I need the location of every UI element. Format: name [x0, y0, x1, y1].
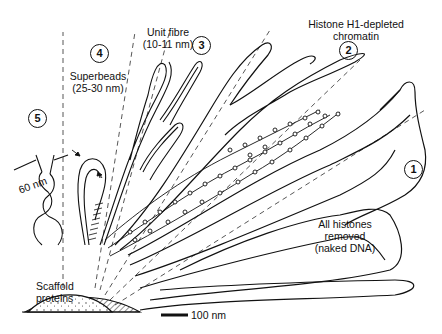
- stage-2-label: Histone H1-depleted chromatin: [301, 18, 411, 42]
- scale-bar-label: 100 nm: [191, 309, 226, 321]
- twisted-coil-60nm: [14, 155, 68, 245]
- superbead-width-arrows: [72, 150, 102, 178]
- stage-1-label-line3: (naked DNA): [300, 242, 390, 254]
- stage-1-label-line2: removed: [300, 230, 390, 242]
- stage-3-label-line2: (10-11 nm): [138, 38, 198, 50]
- stage-4-label-line2: (25-30 nm): [66, 82, 130, 94]
- stage-3-label: Unit fibre (10-11 nm): [138, 26, 198, 50]
- stage-1-marker: 1: [404, 160, 423, 179]
- stage-4-marker: 4: [90, 44, 109, 63]
- naked-dna-loops: [128, 82, 426, 310]
- stage-4-label-line1: Superbeads: [66, 70, 130, 82]
- superbead-coil: [88, 203, 103, 240]
- stage-3-label-line1: Unit fibre: [138, 26, 198, 38]
- scaffold-label: Scaffold proteins: [36, 280, 96, 304]
- superbead-loop: [78, 159, 106, 245]
- stage-2-marker: 2: [339, 41, 358, 60]
- stage-5-marker: 5: [28, 109, 47, 128]
- stage-2-label-line1: Histone H1-depleted: [301, 18, 411, 30]
- stage-4-label: Superbeads (25-30 nm): [66, 70, 130, 94]
- stage-1-label-line1: All histones: [300, 218, 390, 230]
- scaffold-label-line2: proteins: [36, 292, 96, 304]
- stage-1-label: All histones removed (naked DNA): [300, 218, 390, 254]
- scaffold-label-line1: Scaffold: [36, 280, 96, 292]
- stage-2-label-line2: chromatin: [301, 30, 411, 42]
